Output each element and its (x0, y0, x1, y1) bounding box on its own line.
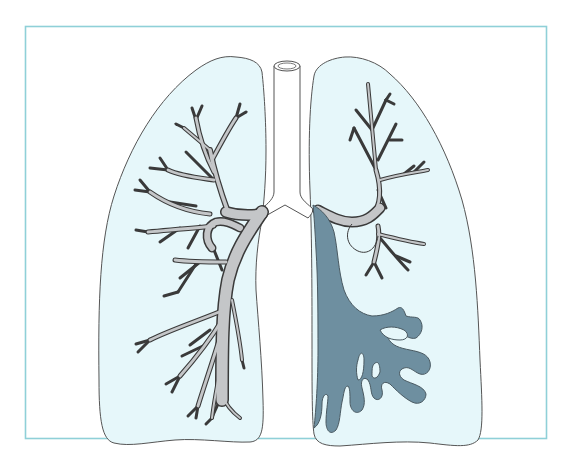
dilated-bronchi-gap (372, 362, 380, 378)
lung-diagram (0, 0, 570, 453)
